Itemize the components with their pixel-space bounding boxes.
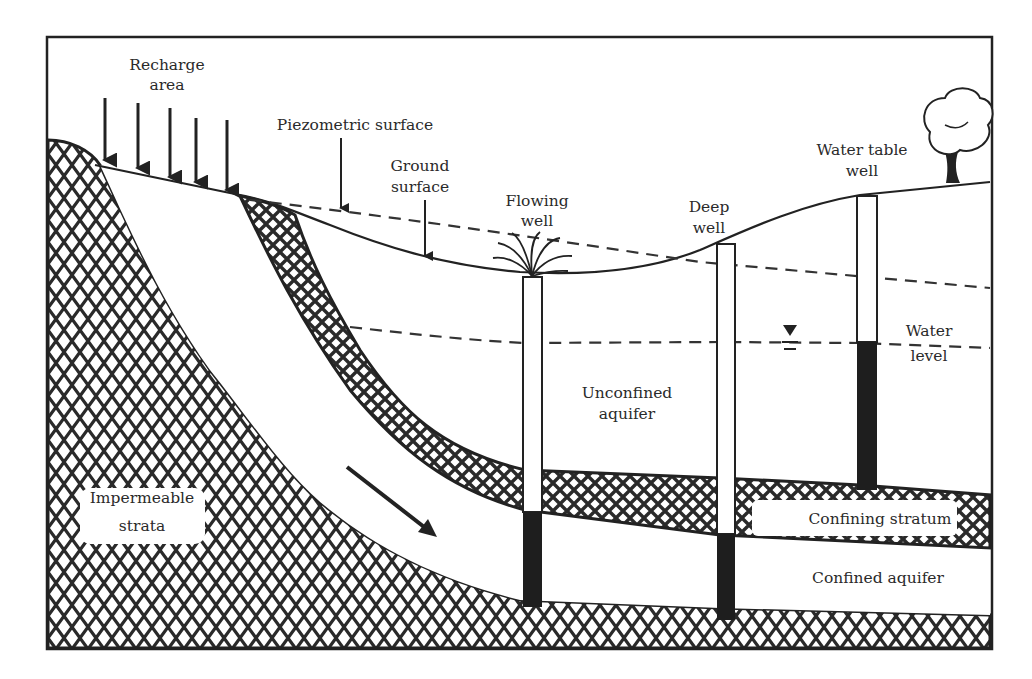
label-water-level-line2: level [910, 347, 947, 365]
label-ground-surface-line2: surface [391, 178, 449, 196]
label-water-level-line1: Water [906, 322, 953, 340]
label-impermeable-strata-line2: strata [119, 517, 165, 535]
label-confining-stratum: Confining stratum [808, 510, 951, 528]
deep-well [717, 244, 735, 620]
label-deep-well-line2: well [693, 219, 725, 237]
water-table-well [857, 196, 877, 490]
water-table-well-water-column [857, 342, 877, 490]
label-flowing-well-line1: Flowing [505, 192, 568, 210]
label-deep-well-line1: Deep [689, 198, 730, 216]
label-water-table-well-line2: well [846, 162, 878, 180]
deep-well-water-column [717, 534, 735, 620]
label-unconfined-aquifer-line1: Unconfined [582, 384, 673, 402]
aquifer-diagram: Recharge area Piezometric surface Ground… [0, 0, 1032, 679]
label-water-table-well-line1: Water table [816, 141, 907, 159]
label-flowing-well-line2: well [521, 212, 553, 230]
flowing-well-water-column [523, 512, 542, 607]
label-recharge-area-line1: Recharge [129, 56, 204, 74]
label-ground-surface-line1: Ground [390, 157, 449, 175]
label-piezometric-surface: Piezometric surface [277, 116, 433, 134]
label-unconfined-aquifer-line2: aquifer [599, 405, 656, 423]
label-recharge-area-line2: area [149, 76, 184, 94]
label-confined-aquifer: Confined aquifer [812, 569, 945, 587]
label-impermeable-strata-line1: Impermeable [90, 489, 195, 507]
